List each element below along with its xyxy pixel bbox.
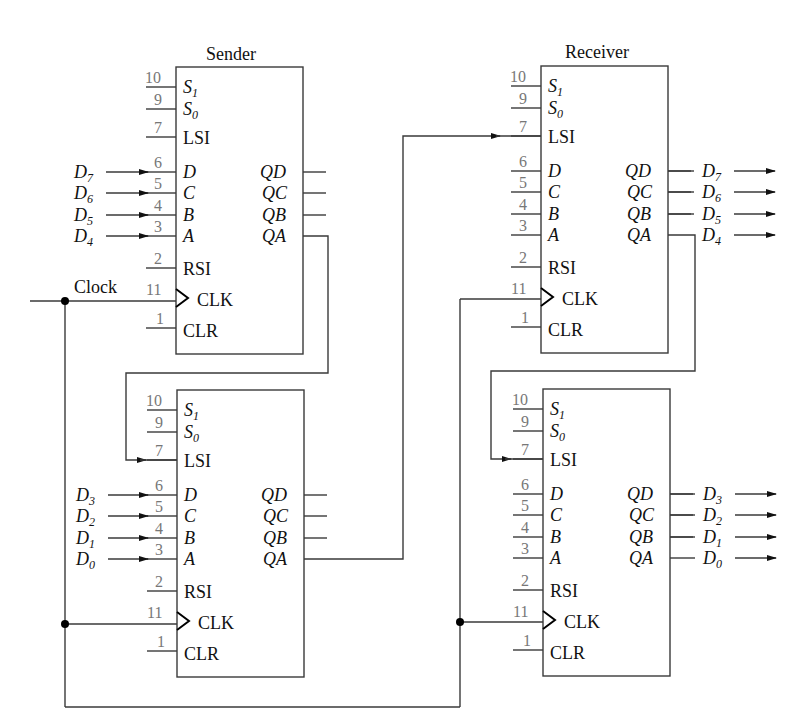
svg-text:B: B: [184, 528, 195, 548]
svg-text:A: A: [183, 549, 196, 569]
svg-text:5: 5: [155, 498, 163, 515]
clock-junction-dot: [61, 297, 69, 305]
svg-text:D: D: [183, 485, 197, 505]
svg-text:1: 1: [156, 310, 164, 327]
svg-text:A: A: [182, 226, 195, 246]
svg-text:D3: D3: [702, 484, 722, 507]
svg-text:CLR: CLR: [548, 320, 583, 340]
svg-text:CLK: CLK: [197, 290, 233, 310]
svg-text:9: 9: [154, 91, 162, 108]
svg-text:QA: QA: [627, 225, 652, 245]
svg-text:6: 6: [155, 477, 163, 494]
svg-text:D: D: [182, 162, 196, 182]
svg-text:7: 7: [155, 442, 163, 459]
svg-text:D4: D4: [701, 225, 721, 248]
svg-text:B: B: [548, 204, 559, 224]
svg-text:10: 10: [146, 392, 162, 409]
svg-text:1: 1: [521, 309, 529, 326]
svg-text:1: 1: [523, 632, 531, 649]
svg-text:D0: D0: [702, 548, 722, 571]
clock-junction-dot: [456, 618, 464, 626]
svg-text:9: 9: [521, 413, 529, 430]
svg-text:CLR: CLR: [183, 321, 218, 341]
svg-text:B: B: [183, 205, 194, 225]
svg-text:CLR: CLR: [184, 644, 219, 664]
svg-text:QB: QB: [629, 527, 653, 547]
svg-text:LSI: LSI: [183, 128, 210, 148]
svg-text:9: 9: [519, 90, 527, 107]
svg-text:11: 11: [513, 603, 528, 620]
svg-text:D0: D0: [75, 549, 95, 572]
svg-text:D4: D4: [73, 226, 93, 249]
svg-text:QC: QC: [263, 506, 289, 526]
svg-text:QD: QD: [261, 485, 287, 505]
svg-text:D1: D1: [75, 528, 95, 551]
svg-text:5: 5: [519, 174, 527, 191]
svg-text:9: 9: [155, 414, 163, 431]
svg-text:2: 2: [154, 250, 162, 267]
svg-text:5: 5: [154, 175, 162, 192]
svg-text:D: D: [547, 161, 561, 181]
svg-text:D3: D3: [75, 485, 95, 508]
svg-text:11: 11: [147, 604, 162, 621]
sender-lower-register: [147, 390, 327, 677]
svg-text:RSI: RSI: [550, 581, 578, 601]
svg-text:QD: QD: [627, 484, 653, 504]
svg-text:QC: QC: [629, 505, 655, 525]
svg-text:D6: D6: [701, 182, 721, 205]
svg-text:10: 10: [512, 391, 528, 408]
svg-text:5: 5: [521, 497, 529, 514]
receiver-upper-register: [511, 66, 691, 353]
svg-text:11: 11: [146, 281, 161, 298]
svg-text:A: A: [547, 225, 560, 245]
svg-text:2: 2: [521, 572, 529, 589]
svg-text:3: 3: [521, 540, 529, 557]
sender-upper-register: [146, 67, 326, 354]
svg-text:RSI: RSI: [183, 259, 211, 279]
svg-text:LSI: LSI: [548, 127, 575, 147]
svg-text:D2: D2: [702, 505, 722, 528]
svg-text:10: 10: [510, 68, 526, 85]
svg-text:QA: QA: [262, 226, 287, 246]
svg-text:D6: D6: [73, 183, 93, 206]
sender-title: Sender: [206, 44, 256, 64]
svg-text:2: 2: [155, 573, 163, 590]
svg-text:LSI: LSI: [550, 450, 577, 470]
svg-text:7: 7: [519, 118, 527, 135]
svg-text:RSI: RSI: [548, 258, 576, 278]
svg-text:QC: QC: [627, 182, 653, 202]
svg-text:C: C: [550, 505, 563, 525]
clock-junction-dot: [61, 620, 69, 628]
svg-text:QB: QB: [627, 204, 651, 224]
svg-text:C: C: [183, 183, 196, 203]
svg-text:QC: QC: [262, 183, 288, 203]
receiver-title: Receiver: [565, 42, 629, 62]
receiver-lower-register: [513, 389, 693, 676]
svg-text:RSI: RSI: [184, 582, 212, 602]
svg-text:QA: QA: [263, 549, 288, 569]
svg-text:4: 4: [154, 197, 162, 214]
svg-text:2: 2: [519, 249, 527, 266]
svg-text:1: 1: [157, 633, 165, 650]
svg-text:A: A: [549, 548, 562, 568]
clock-label: Clock: [74, 277, 117, 297]
svg-text:D2: D2: [75, 506, 95, 529]
svg-text:CLK: CLK: [198, 613, 234, 633]
svg-text:QD: QD: [260, 162, 286, 182]
svg-text:D: D: [549, 484, 563, 504]
svg-text:4: 4: [519, 196, 527, 213]
svg-text:6: 6: [519, 153, 527, 170]
svg-text:11: 11: [511, 280, 526, 297]
svg-text:D5: D5: [73, 205, 93, 228]
receiver-lower-data-outputs: D3 D2 D1 D0: [670, 484, 776, 571]
svg-text:7: 7: [154, 119, 162, 136]
svg-text:4: 4: [521, 519, 529, 536]
svg-text:QB: QB: [262, 205, 286, 225]
svg-text:LSI: LSI: [184, 451, 211, 471]
svg-text:C: C: [548, 182, 561, 202]
svg-text:4: 4: [155, 520, 163, 537]
svg-text:10: 10: [145, 69, 161, 86]
svg-text:B: B: [550, 527, 561, 547]
svg-text:3: 3: [155, 541, 163, 558]
svg-text:D7: D7: [73, 162, 94, 185]
